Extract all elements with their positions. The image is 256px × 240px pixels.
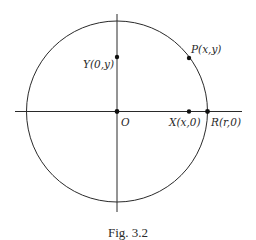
point-p bbox=[187, 56, 191, 60]
figure-caption: Fig. 3.2 bbox=[108, 225, 148, 240]
point-x bbox=[187, 109, 191, 113]
point-r bbox=[205, 109, 210, 114]
label-r: R(r,0) bbox=[210, 116, 241, 128]
point-o bbox=[115, 109, 120, 114]
label-o: O bbox=[121, 116, 130, 128]
label-y: Y(0,y) bbox=[83, 58, 114, 70]
circle-diagram: P(x,y) Y(0,y) O X(x,0) R(r,0) Fig. 3.2 bbox=[0, 0, 256, 240]
label-x: X(x,0) bbox=[168, 116, 201, 128]
label-p: P(x,y) bbox=[190, 43, 221, 55]
point-y bbox=[115, 55, 119, 59]
